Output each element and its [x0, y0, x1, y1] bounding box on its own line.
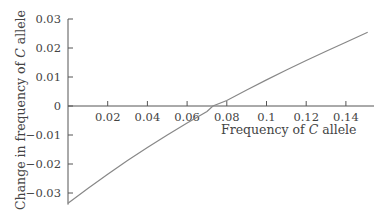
- y-tick-label: 0.02: [35, 41, 61, 55]
- y-tick-label: 0: [54, 99, 61, 113]
- y-tick-label: 0.01: [35, 70, 61, 84]
- chart: 0.020.040.060.080.10.120.140.030.020.010…: [0, 0, 390, 218]
- x-tick-label: 0.02: [95, 110, 121, 124]
- y-axis-label: Change in frequency of C allele: [13, 10, 28, 210]
- y-tick-label: −0.01: [26, 128, 61, 142]
- y-tick-label: −0.03: [26, 186, 61, 200]
- chart-svg: 0.020.040.060.080.10.120.140.030.020.010…: [0, 0, 390, 218]
- x-axis-label: Frequency of C allele: [221, 122, 357, 137]
- y-tick-label: −0.02: [26, 157, 61, 171]
- x-tick-label: 0.04: [135, 110, 161, 124]
- x-tick-label: 0.06: [174, 110, 200, 124]
- y-tick-label: 0.03: [35, 12, 61, 26]
